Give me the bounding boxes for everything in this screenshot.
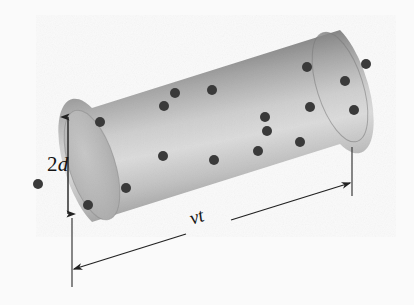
molecule-dot (33, 179, 43, 189)
molecule-dot (159, 101, 169, 111)
molecule-dot (83, 200, 93, 210)
molecule-dot (207, 85, 217, 95)
molecule-dot (260, 112, 270, 122)
molecule-dot (361, 59, 371, 69)
molecule-dot (305, 102, 315, 112)
molecule-dot (253, 146, 263, 156)
molecule-dot (340, 76, 350, 86)
label-diameter-2d: 2d (47, 154, 69, 175)
molecule-dot (295, 137, 305, 147)
molecule-dot (170, 88, 180, 98)
figure-canvas: 2d vt (0, 0, 414, 305)
label-diameter-symbol: d (58, 152, 69, 176)
molecule-dot (262, 126, 272, 136)
molecule-dot (121, 183, 131, 193)
molecule-dot (158, 151, 168, 161)
label-diameter-prefix: 2 (47, 152, 58, 176)
molecule-dot (209, 155, 219, 165)
molecule-dot (349, 105, 359, 115)
molecule-dot (302, 62, 312, 72)
molecule-dot (95, 117, 105, 127)
